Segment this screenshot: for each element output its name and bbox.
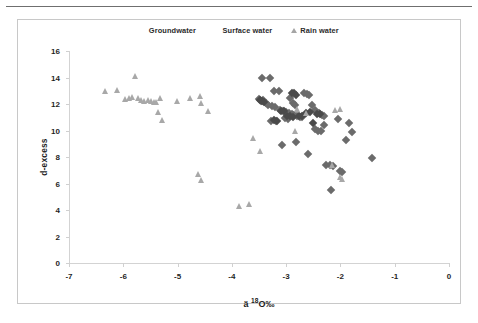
data-point-rain-water [132, 73, 138, 79]
chart-figure-box: Groundwater Surface water Rain water 024… [17, 19, 461, 304]
data-point-rain-water [339, 176, 345, 182]
y-tick-label: 12 [30, 100, 60, 109]
y-tick-label: 2 [30, 232, 60, 241]
x-tick-label: 0 [436, 272, 462, 281]
data-point-rain-water [187, 95, 193, 101]
data-point-groundwater [348, 128, 356, 136]
legend-item-groundwater[interactable]: Groundwater [141, 26, 196, 35]
data-points-layer [69, 51, 449, 263]
x-axis-title: ä 18O‰ [69, 297, 449, 309]
data-point-rain-water [292, 128, 298, 134]
x-tick [232, 263, 233, 267]
x-tick [123, 263, 124, 267]
data-point-groundwater [304, 150, 312, 158]
x-tick-label: -4 [219, 272, 245, 281]
data-point-rain-water [246, 201, 252, 207]
triangle-marker-icon [291, 28, 297, 33]
data-point-rain-water [294, 106, 300, 112]
x-axis-title-base: ä [244, 299, 252, 309]
data-point-rain-water [157, 95, 163, 101]
data-point-rain-water [198, 100, 204, 106]
chart-legend: Groundwater Surface water Rain water [18, 26, 462, 35]
y-axis-title: d-excess [39, 138, 49, 175]
x-tick-label: -7 [56, 272, 82, 281]
x-tick-label: -5 [165, 272, 191, 281]
y-tick-label: 10 [30, 126, 60, 135]
data-point-groundwater [278, 141, 286, 149]
data-point-rain-water [198, 177, 204, 183]
data-point-rain-water [236, 203, 242, 209]
figure-container: Groundwater Surface water Rain water 024… [0, 0, 478, 323]
x-tick-label: -3 [273, 272, 299, 281]
data-point-groundwater [266, 73, 274, 81]
data-point-rain-water [303, 110, 309, 116]
x-tick [178, 263, 179, 267]
legend-label-surface-water: Surface water [223, 26, 273, 35]
y-tick-label: 4 [30, 206, 60, 215]
data-point-groundwater [333, 114, 341, 122]
data-point-rain-water [257, 148, 263, 154]
x-axis-title-tail: O‰ [258, 299, 274, 309]
data-point-rain-water [337, 106, 343, 112]
data-point-rain-water [329, 162, 335, 168]
y-tick-label: 0 [30, 259, 60, 268]
y-tick-label: 16 [30, 47, 60, 56]
x-tick [69, 263, 70, 267]
data-point-rain-water [250, 135, 256, 141]
legend-label-rain-water: Rain water [300, 26, 338, 35]
data-point-groundwater [368, 154, 376, 162]
legend-label-groundwater: Groundwater [149, 26, 196, 35]
data-point-groundwater [257, 74, 265, 82]
data-point-groundwater [326, 186, 334, 194]
y-tick-label: 14 [30, 73, 60, 82]
x-tick-label: -2 [327, 272, 353, 281]
data-point-rain-water [155, 109, 161, 115]
data-point-rain-water [114, 87, 120, 93]
data-point-rain-water [102, 88, 108, 94]
plot-area: 0246810121416 -7-6-5-4-3-2-10 d-excess ä… [69, 51, 449, 263]
data-point-rain-water [197, 93, 203, 99]
x-tick [286, 263, 287, 267]
legend-item-surface-water[interactable]: Surface water [215, 26, 272, 35]
data-point-groundwater [342, 136, 350, 144]
data-point-groundwater [345, 119, 353, 127]
data-point-rain-water [174, 98, 180, 104]
data-point-groundwater [274, 87, 282, 95]
y-tick-label: 6 [30, 179, 60, 188]
x-tick [449, 263, 450, 267]
diamond-marker-icon [214, 27, 220, 33]
data-point-groundwater [292, 138, 300, 146]
x-tick-label: -6 [110, 272, 136, 281]
data-point-rain-water [205, 108, 211, 114]
x-tick-label: -1 [382, 272, 408, 281]
data-point-rain-water [159, 117, 165, 123]
x-tick [340, 263, 341, 267]
x-tick [395, 263, 396, 267]
x-axis-line [69, 263, 449, 264]
top-horizontal-rule [6, 6, 472, 7]
diamond-marker-icon [140, 27, 146, 33]
legend-item-rain-water[interactable]: Rain water [291, 26, 338, 35]
